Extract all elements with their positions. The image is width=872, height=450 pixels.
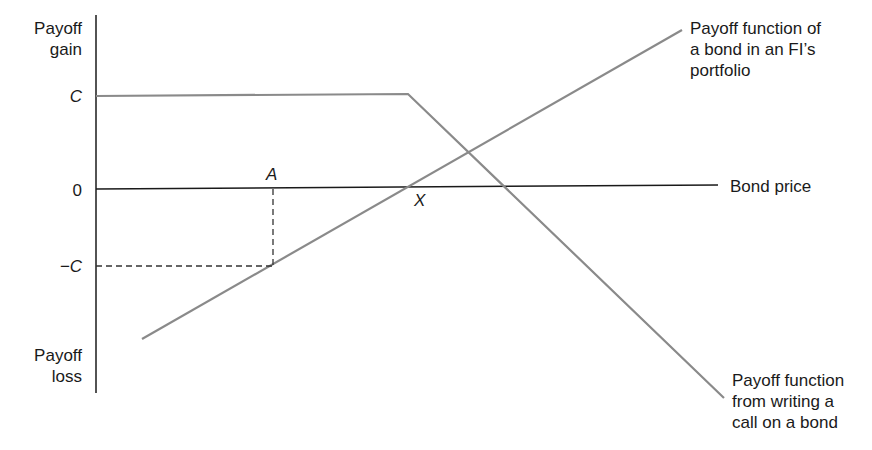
bond-payoff-line: [142, 30, 682, 339]
bond-fn-line2: a bond in an FI’s: [690, 39, 821, 60]
bond-price-label: Bond price: [730, 176, 811, 197]
payoff-loss-line2: loss: [20, 366, 82, 387]
payoff-gain-line2: gain: [20, 39, 82, 60]
payoff-gain-label: Payoff gain: [20, 18, 82, 60]
bond-payoff-legend: Payoff function of a bond in an FI’s por…: [690, 18, 821, 81]
call-fn-line1: Payoff function: [732, 370, 844, 391]
call-fn-line3: call on a bond: [732, 412, 844, 433]
point-a-label: A: [266, 164, 277, 185]
call-writing-payoff-line: [96, 94, 724, 398]
bond-fn-line1: Payoff function of: [690, 18, 821, 39]
payoff-gain-line1: Payoff: [20, 18, 82, 39]
tick-neg-c: −C: [40, 256, 82, 277]
tick-zero: 0: [50, 180, 82, 201]
call-payoff-legend: Payoff function from writing a call on a…: [732, 370, 844, 433]
point-x-label: X: [414, 190, 425, 211]
payoff-loss-label: Payoff loss: [20, 345, 82, 387]
tick-c: C: [50, 86, 82, 107]
payoff-loss-line1: Payoff: [20, 345, 82, 366]
call-fn-line2: from writing a: [732, 391, 844, 412]
bond-fn-line3: portfolio: [690, 60, 821, 81]
